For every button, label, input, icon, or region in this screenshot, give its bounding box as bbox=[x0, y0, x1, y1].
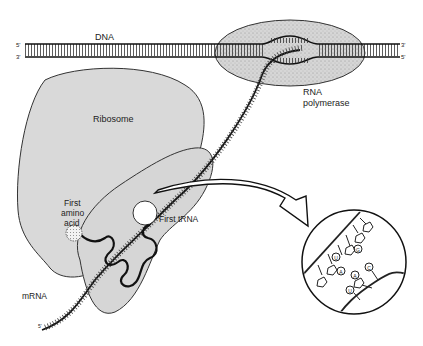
svg-text:G: G bbox=[356, 247, 360, 253]
svg-text:U: U bbox=[348, 288, 352, 294]
inset-magnified-view: A U G A C U bbox=[300, 210, 410, 320]
first-amino-acid-label-3: acid bbox=[64, 218, 80, 228]
dna-3prime-right: 3' bbox=[401, 42, 405, 48]
svg-text:C: C bbox=[367, 265, 371, 271]
transcription-translation-diagram: A U G A C U DNA 5' 3' 3' 5' RNA polymera… bbox=[0, 0, 423, 346]
dna-5prime-right: 5' bbox=[401, 54, 405, 60]
first-trna bbox=[133, 201, 157, 225]
dna-5prime-left: 5' bbox=[16, 42, 20, 48]
ribosome-label: Ribosome bbox=[93, 114, 134, 124]
mrna-5prime-label: 5' bbox=[38, 323, 42, 329]
dna-label: DNA bbox=[95, 32, 114, 42]
rna-polymerase-label-1: RNA bbox=[303, 87, 322, 97]
dna-3prime-left: 3' bbox=[16, 54, 20, 60]
mrna-label: mRNA bbox=[22, 291, 47, 301]
svg-text:U: U bbox=[334, 255, 338, 261]
first-amino-acid-label-2: amino bbox=[61, 208, 84, 218]
rna-polymerase-label-2: polymerase bbox=[303, 98, 350, 108]
first-trna-label: First tRNA bbox=[159, 214, 199, 224]
first-amino-acid-label-1: First bbox=[64, 198, 81, 208]
